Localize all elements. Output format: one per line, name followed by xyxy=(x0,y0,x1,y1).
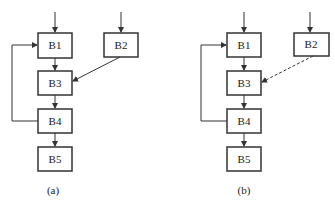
diagram-b xyxy=(201,12,329,171)
edge-b2-b3 xyxy=(73,57,120,81)
edge-b4-b1-loop xyxy=(12,45,38,121)
block-label: B1 xyxy=(49,39,62,51)
block-label: B3 xyxy=(49,77,62,89)
diagram-a xyxy=(12,12,138,171)
block-label: B3 xyxy=(238,77,251,89)
block-label: B2 xyxy=(115,39,128,51)
block-label: B5 xyxy=(49,153,62,165)
diagram-a-labels: B1 B2 B3 B4 B5 (a) xyxy=(47,39,128,197)
block-label: B4 xyxy=(49,115,62,127)
block-label: B1 xyxy=(238,39,251,51)
block-label: B5 xyxy=(238,153,251,165)
block-label: B2 xyxy=(305,38,318,50)
edge-b2-b3-dashed xyxy=(262,56,313,82)
caption-a: (a) xyxy=(47,184,60,197)
flow-graphs: B1 B2 B3 B4 B5 (a) B1 B2 B3 B4 B5 (b) xyxy=(0,0,335,205)
caption-b: (b) xyxy=(238,184,251,197)
diagram-b-labels: B1 B2 B3 B4 B5 (b) xyxy=(238,38,318,197)
edge-b4-b1-loop xyxy=(201,45,227,121)
block-label: B4 xyxy=(238,115,251,127)
